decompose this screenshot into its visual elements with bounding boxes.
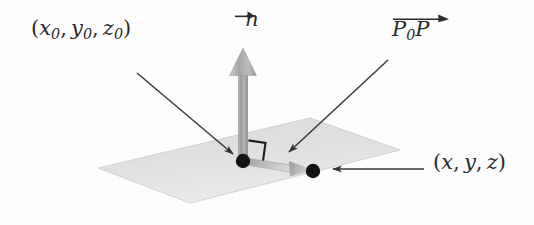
overrightarrow-group: P0P [392,13,429,43]
comma-1: , [60,16,67,40]
x-symbol: x [39,16,51,40]
plane-normal-vector-figure: (x0, y0, z0) n P0P (x, y, z) [0,0,534,225]
label-vector-p0p: P0P [392,13,429,43]
point-p [306,164,320,178]
p-second-symbol: P [415,17,429,41]
comma-2: , [92,16,99,40]
close-paren: ) [123,16,131,40]
y-symbol: y [71,16,83,40]
p-first-subscript: 0 [406,27,415,43]
comma-2: , [476,150,483,174]
label-normal-vector: n [245,9,259,30]
y-symbol: y [464,150,476,174]
leader-to-p0 [137,73,233,154]
open-paren: ( [31,16,39,40]
vec-n-group: n [245,9,259,30]
point-p0 [236,154,250,168]
x-symbol: x [441,150,453,174]
n-symbol: n [245,7,259,31]
comma-1: , [453,150,460,174]
label-point-p: (x, y, z) [433,152,506,173]
close-paren: ) [498,150,506,174]
y-subscript: 0 [83,26,92,42]
p-first-symbol: P [392,17,406,41]
x-subscript: 0 [51,26,60,42]
z-symbol: z [487,150,498,174]
label-point-p0: (x0, y0, z0) [31,18,131,41]
z-symbol: z [103,16,114,40]
open-paren: ( [433,150,441,174]
z-subscript: 0 [114,26,123,42]
